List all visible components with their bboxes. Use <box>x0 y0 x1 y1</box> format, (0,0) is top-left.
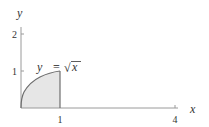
y-tick-label-2: 2 <box>12 29 17 40</box>
sqrt-symbol: √ <box>64 61 71 75</box>
curve-label-radicand: x <box>71 60 78 74</box>
y-tick-label-1: 1 <box>12 66 17 77</box>
x-tick-label-1: 1 <box>58 114 63 125</box>
curve-label-lhs: y <box>36 60 43 74</box>
curve-label: y = √ x <box>36 60 81 75</box>
x-axis-label: x <box>189 102 196 116</box>
y-axis-label: y <box>16 6 23 20</box>
curve-label-equals: = <box>53 60 60 74</box>
x-tick-label-4: 4 <box>173 114 178 125</box>
diagram-canvas: y x 2 1 1 4 y = √ x <box>0 0 209 127</box>
